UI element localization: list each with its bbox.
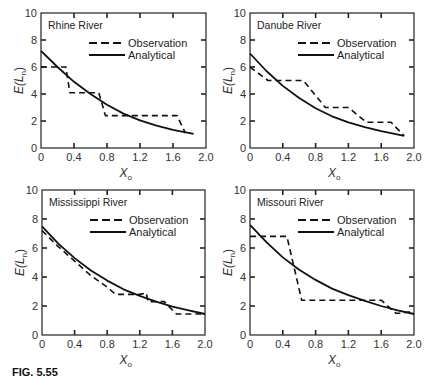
x-tick-label: 1.2 (341, 338, 356, 350)
legend-analytical-label: Analytical (337, 49, 384, 61)
x-axis-label-subscript: o (336, 360, 341, 369)
caption-label: FIG. 5.55 (12, 366, 58, 378)
x-tick-label: 0.4 (67, 338, 82, 350)
x-tick-label: 1.6 (165, 151, 180, 163)
y-tick-label: 6 (240, 242, 246, 254)
chart-panel-missouri-river: 00.40.81.21.62.00246810Missouri RiverObs… (221, 184, 422, 369)
x-tick-label: 0.8 (99, 151, 114, 163)
panel-title: Mississippi River (49, 196, 128, 208)
y-tick-label: 10 (25, 7, 37, 19)
x-tick-label: 2.0 (406, 338, 421, 350)
panel-title: Rhine River (48, 19, 103, 31)
legend-analytical-label: Analytical (129, 226, 176, 238)
y-tick-label: 2 (32, 300, 38, 312)
analytical-line (41, 51, 194, 134)
y-tick-label: 8 (32, 213, 38, 225)
y-tick-label: 10 (234, 7, 246, 19)
observation-line (41, 67, 185, 133)
y-tick-label: 10 (234, 184, 246, 196)
x-tick-label: 1.6 (374, 338, 389, 350)
y-tick-label: 2 (31, 115, 37, 127)
chart-panel-rhine-river: 00.40.81.21.62.00246810Rhine RiverObserv… (12, 7, 214, 182)
panel-title: Danube River (257, 19, 322, 31)
legend-observation-label: Observation (337, 214, 396, 226)
analytical-line (42, 226, 205, 314)
legend-observation-label: Observation (129, 214, 188, 226)
x-tick-label: 0.4 (275, 151, 290, 163)
y-tick-label: 0 (240, 329, 246, 341)
y-tick-label: 4 (32, 271, 38, 283)
y-tick-label: 2 (240, 115, 246, 127)
y-tick-label: 0 (240, 142, 246, 154)
legend-observation-label: Observation (337, 37, 396, 49)
x-axis-label-subscript: o (128, 173, 133, 182)
y-tick-label: 6 (32, 242, 38, 254)
y-axis-label: E(Ln) (13, 249, 29, 276)
plot-frame (250, 190, 414, 335)
chart-panel-danube-river: 00.40.81.21.62.00246810Danube RiverObser… (221, 7, 422, 182)
observation-line (250, 236, 410, 313)
y-tick-label: 4 (240, 88, 246, 100)
y-tick-label: 10 (26, 184, 38, 196)
y-axis-label: E(Ln) (12, 67, 28, 94)
y-tick-label: 4 (31, 88, 37, 100)
y-tick-label: 6 (240, 61, 246, 73)
plot-frame (41, 13, 206, 148)
x-tick-label: 0 (39, 338, 45, 350)
y-tick-label: 0 (32, 329, 38, 341)
figure-caption: FIG. 5.55 (12, 366, 58, 378)
x-tick-label: 0.8 (308, 151, 323, 163)
x-tick-label: 1.2 (132, 338, 147, 350)
panel-title: Missouri River (257, 196, 324, 208)
x-tick-label: 2.0 (197, 338, 212, 350)
plot-frame (250, 13, 414, 148)
y-tick-label: 0 (31, 142, 37, 154)
x-tick-label: 0.8 (308, 338, 323, 350)
x-tick-label: 2.0 (406, 151, 421, 163)
legend-observation-label: Observation (128, 37, 187, 49)
y-tick-label: 8 (240, 213, 246, 225)
y-tick-label: 8 (31, 34, 37, 46)
legend-analytical-label: Analytical (337, 226, 384, 238)
chart-panel-mississippi-river: 00.40.81.21.62.00246810Mississippi River… (13, 184, 213, 369)
y-tick-label: 4 (240, 271, 246, 283)
x-axis-label-subscript: o (336, 173, 341, 182)
analytical-line (250, 54, 404, 136)
x-tick-label: 0.4 (275, 338, 290, 350)
y-axis-label: E(Ln) (221, 67, 237, 94)
y-tick-label: 8 (240, 34, 246, 46)
x-tick-label: 0 (247, 338, 253, 350)
y-tick-label: 2 (240, 300, 246, 312)
observation-line (42, 231, 205, 314)
x-tick-label: 1.6 (374, 151, 389, 163)
x-tick-label: 0 (38, 151, 44, 163)
x-tick-label: 1.2 (132, 151, 147, 163)
x-tick-label: 0.8 (100, 338, 115, 350)
x-tick-label: 0 (247, 151, 253, 163)
x-axis-label-subscript: o (128, 360, 133, 369)
y-tick-label: 6 (31, 61, 37, 73)
legend-analytical-label: Analytical (128, 49, 175, 61)
x-tick-label: 0.4 (66, 151, 81, 163)
y-axis-label: E(Ln) (221, 249, 237, 276)
x-tick-label: 1.6 (165, 338, 180, 350)
x-tick-label: 1.2 (341, 151, 356, 163)
x-tick-label: 2.0 (198, 151, 213, 163)
